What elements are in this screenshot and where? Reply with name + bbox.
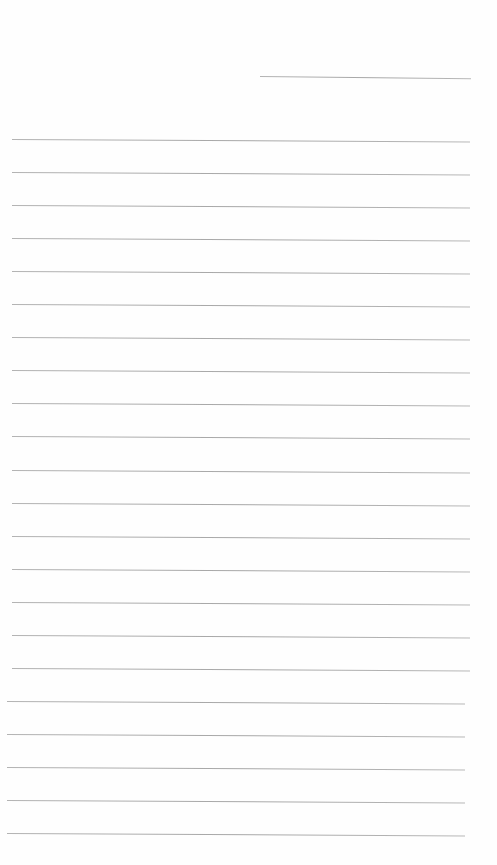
ruled-line — [12, 139, 470, 142]
ruled-line — [12, 403, 470, 406]
ruled-line — [7, 800, 465, 803]
ruled-line — [7, 833, 465, 836]
ruled-line — [12, 370, 470, 373]
ruled-line — [7, 767, 465, 770]
ruled-line — [12, 304, 470, 307]
ruled-line — [12, 172, 470, 175]
ruled-line — [12, 635, 470, 638]
ruled-line — [12, 503, 470, 506]
lined-paper-page — [0, 0, 497, 865]
ruled-line — [12, 668, 470, 671]
ruled-line — [12, 337, 470, 340]
ruled-line — [12, 238, 470, 241]
ruled-line — [12, 602, 470, 605]
ruled-line — [7, 701, 465, 704]
ruled-line — [12, 436, 470, 439]
ruled-line — [7, 734, 465, 737]
ruled-line — [12, 271, 470, 274]
ruled-line — [12, 569, 470, 572]
ruled-line — [12, 470, 470, 473]
ruled-line — [12, 536, 470, 539]
ruled-line — [12, 205, 470, 208]
header-name-line — [260, 76, 471, 79]
